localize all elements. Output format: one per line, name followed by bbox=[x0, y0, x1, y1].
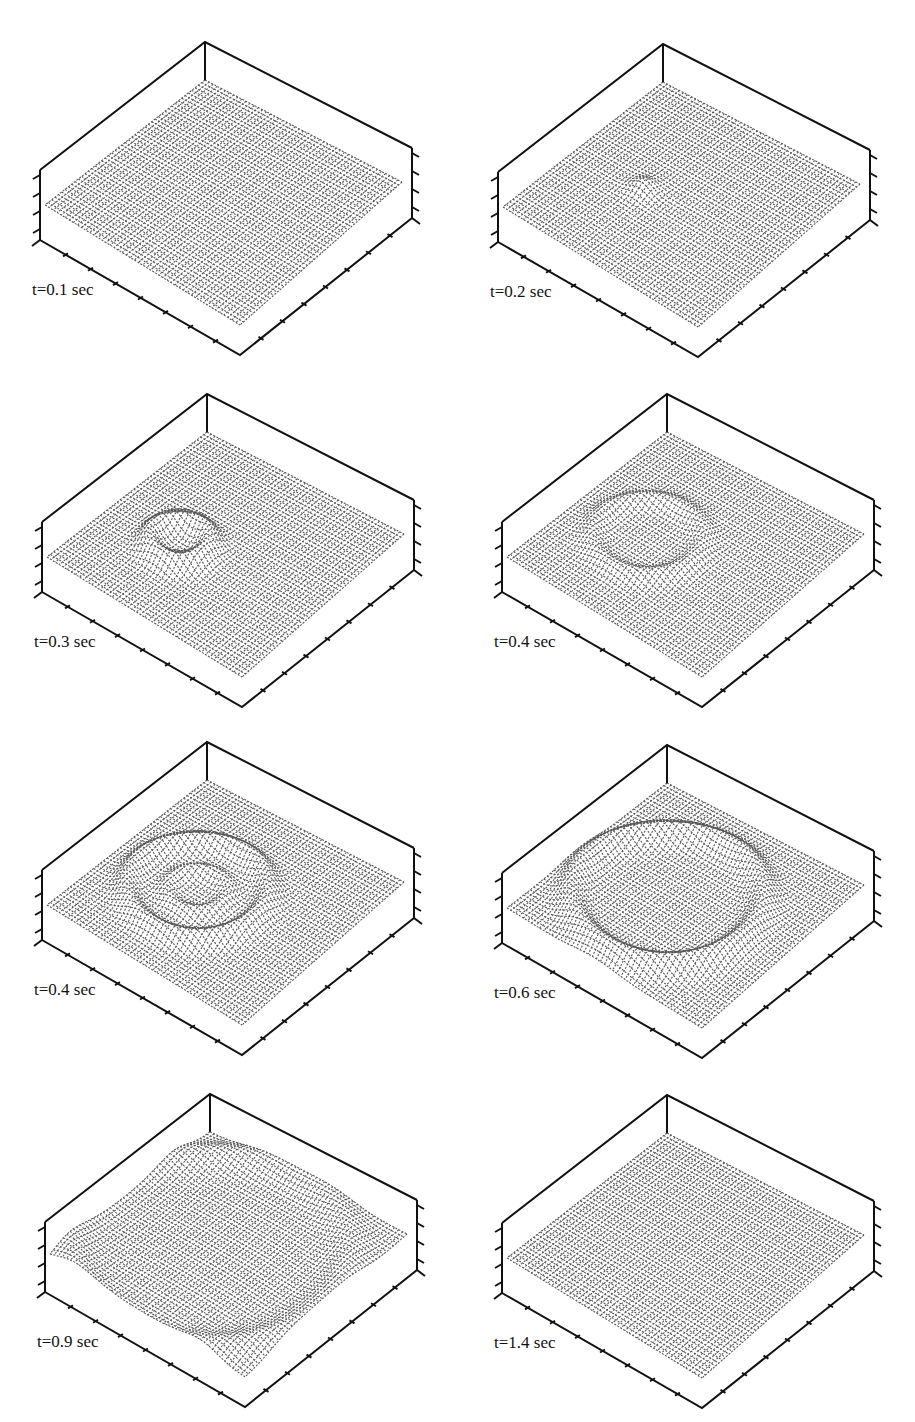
surface-mesh bbox=[503, 82, 860, 327]
surface-panel-1: t=0.1 sec bbox=[0, 0, 455, 355]
surface-panel-8: t=1.4 sec bbox=[462, 1053, 915, 1408]
surface-plot bbox=[462, 352, 915, 707]
surface-mesh bbox=[47, 432, 404, 677]
surface-mesh bbox=[507, 432, 864, 677]
surface-panel-4: t=0.4 sec bbox=[462, 352, 915, 707]
surface-plot bbox=[462, 703, 915, 1058]
figure-grid: t=0.1 sec t=0.2 sec t=0.3 sec t=0.4 sec … bbox=[0, 0, 915, 1422]
surface-panel-7: t=0.9 sec bbox=[5, 1052, 460, 1407]
time-label: t=1.4 sec bbox=[494, 1333, 556, 1353]
surface-plot bbox=[0, 0, 455, 355]
base-axes bbox=[32, 153, 420, 355]
surface-plot bbox=[2, 700, 457, 1055]
time-label: t=0.9 sec bbox=[37, 1332, 99, 1352]
surface-mesh bbox=[47, 780, 404, 1025]
surface-panel-5: t=0.4 sec bbox=[2, 700, 457, 1055]
surface-plot bbox=[462, 1053, 915, 1408]
base-axes bbox=[34, 853, 422, 1055]
time-label: t=0.4 sec bbox=[34, 980, 96, 1000]
surface-panel-3: t=0.3 sec bbox=[2, 352, 457, 707]
surface-mesh bbox=[507, 1133, 864, 1378]
base-axes bbox=[490, 155, 878, 357]
time-label: t=0.1 sec bbox=[32, 280, 94, 300]
surface-mesh bbox=[45, 80, 402, 325]
time-label: t=0.4 sec bbox=[494, 632, 556, 652]
surface-plot bbox=[458, 2, 913, 357]
axis-box bbox=[45, 1094, 417, 1292]
time-label: t=0.3 sec bbox=[34, 632, 96, 652]
time-label: t=0.2 sec bbox=[490, 282, 552, 302]
surface-mesh bbox=[507, 783, 864, 1028]
time-label: t=0.6 sec bbox=[494, 983, 556, 1003]
base-axes bbox=[494, 1206, 882, 1408]
surface-panel-6: t=0.6 sec bbox=[462, 703, 915, 1058]
surface-plot bbox=[5, 1052, 460, 1407]
surface-panel-2: t=0.2 sec bbox=[458, 2, 913, 357]
surface-plot bbox=[2, 352, 457, 707]
